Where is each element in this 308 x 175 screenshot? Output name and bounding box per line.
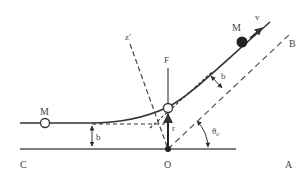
origin-point (165, 146, 171, 152)
particle-initial (41, 119, 50, 128)
velocity-arrow (250, 28, 262, 38)
label-particle-final: M (232, 22, 241, 33)
particle-trajectory (20, 22, 270, 123)
label-particle-initial: M (40, 106, 49, 117)
label-angle: θc (212, 126, 219, 138)
label-axis-z: z′ (125, 32, 131, 42)
label-radius: r (172, 123, 175, 133)
scattering-diagram: M M v B z′ F b b r θc C O A (0, 0, 308, 175)
outgoing-asymptote (150, 72, 212, 128)
axis-z-prime (130, 44, 168, 149)
label-point-a: A (285, 159, 293, 170)
label-impact-in: b (96, 132, 101, 142)
particle-closest (164, 104, 173, 113)
label-impact-out: b (221, 71, 226, 81)
label-point-c: C (20, 159, 27, 170)
label-b-point: B (289, 38, 296, 49)
particle-final (237, 37, 248, 48)
label-origin: O (164, 159, 171, 170)
angle-arc (197, 121, 208, 147)
label-velocity: v (255, 12, 260, 22)
label-force: F (164, 55, 169, 65)
line-ob (168, 33, 291, 149)
